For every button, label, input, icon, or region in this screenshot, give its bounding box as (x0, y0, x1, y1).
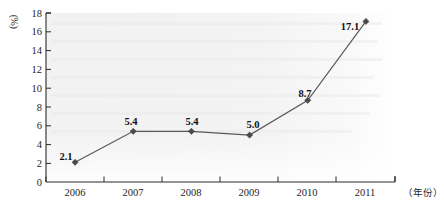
point-label: 8.7 (298, 88, 311, 99)
x-tick-label: 2007 (123, 187, 144, 198)
x-tick-label: 2011 (355, 187, 376, 198)
y-tick-label: 2 (37, 158, 42, 169)
y-tick-label: 6 (37, 120, 42, 131)
y-tick-label: 12 (32, 64, 43, 75)
x-tick-label: 2010 (297, 187, 318, 198)
x-tick-label: 2009 (239, 187, 260, 198)
y-tick-label: 0 (37, 177, 42, 188)
y-tick-label: 4 (37, 139, 43, 150)
chart-canvas: 18 16 14 12 10 8 6 4 2 0 2006 2007 2008 … (0, 0, 444, 220)
point-label: 17.1 (341, 21, 359, 32)
point-label: 5.4 (124, 116, 138, 127)
point-label: 5.4 (185, 116, 199, 127)
y-tick-label: 8 (37, 102, 42, 113)
point-label: 5.0 (246, 119, 259, 130)
y-tick-label: 16 (32, 26, 43, 37)
y-tick-label: 14 (32, 45, 43, 56)
x-axis-labels: 2006 2007 2008 2009 2010 2011 (65, 187, 376, 198)
x-tick-label: 2006 (65, 187, 86, 198)
y-tick-label: 18 (32, 8, 43, 19)
x-tick-label: 2008 (181, 187, 202, 198)
y-tick-label: 10 (32, 83, 43, 94)
point-label: 2.1 (59, 151, 72, 162)
plot-background (46, 13, 392, 181)
chart-figure: (%) (0, 0, 444, 220)
x-axis-unit-label: （年份） (403, 187, 443, 198)
